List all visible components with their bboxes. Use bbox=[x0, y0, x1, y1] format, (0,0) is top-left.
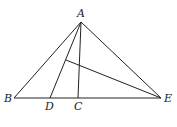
label-A: A bbox=[77, 8, 85, 19]
label-E: E bbox=[164, 93, 172, 104]
segment-AC bbox=[78, 22, 81, 98]
segment-AE bbox=[81, 22, 161, 98]
segment-AB bbox=[14, 22, 81, 98]
segment-FE bbox=[66, 60, 161, 98]
diagram-lines bbox=[0, 0, 177, 127]
label-B: B bbox=[4, 93, 12, 104]
label-D: D bbox=[45, 101, 54, 112]
segment-AD bbox=[50, 22, 81, 98]
geometry-diagram: A B D C E bbox=[0, 0, 177, 127]
label-C: C bbox=[74, 101, 82, 112]
